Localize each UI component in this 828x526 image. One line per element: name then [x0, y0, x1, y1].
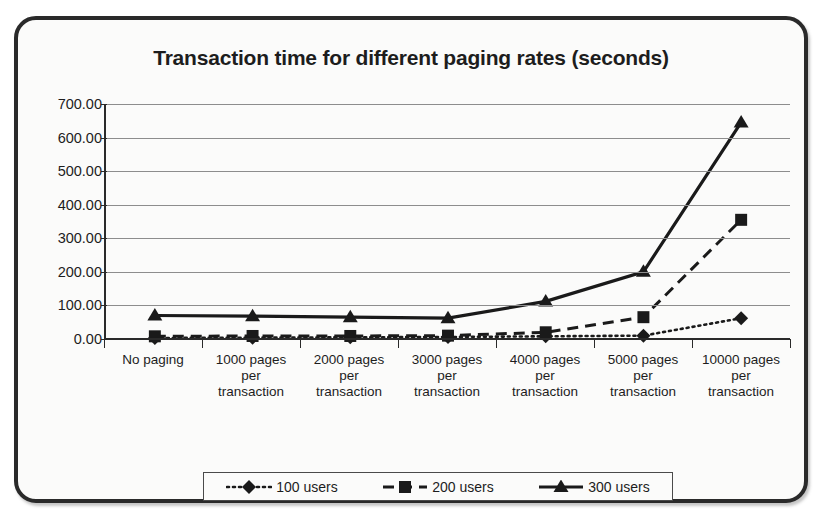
- x-tick-mark: [300, 339, 301, 348]
- legend-label: 300 users: [588, 479, 649, 495]
- x-category-line: transaction: [203, 384, 299, 400]
- legend-entry[interactable]: 100 users: [226, 479, 337, 495]
- gridline: [106, 138, 790, 139]
- x-tick-mark: [202, 339, 203, 348]
- legend-key-triangle-icon: [538, 480, 584, 494]
- y-tick-mark: [101, 238, 107, 239]
- y-axis-labels: 700.00600.00500.00400.00300.00200.00100.…: [26, 104, 102, 339]
- x-tick-mark: [594, 339, 595, 348]
- legend-label: 200 users: [432, 479, 493, 495]
- gridline: [106, 272, 790, 273]
- series-300-users: [147, 115, 748, 323]
- y-tick-mark: [101, 138, 107, 139]
- data-point-triangle: [734, 115, 749, 128]
- y-tick-label: 200.00: [26, 264, 102, 280]
- plot-area: [104, 104, 790, 339]
- series-layer: [106, 104, 790, 339]
- x-category-line: per: [693, 368, 789, 384]
- x-category-label: 5000 pagespertransaction: [594, 352, 692, 452]
- x-category-label: 3000 pagespertransaction: [398, 352, 496, 452]
- legend-entry[interactable]: 200 users: [382, 479, 493, 495]
- x-category-line: per: [595, 368, 691, 384]
- y-tick-label: 100.00: [26, 297, 102, 313]
- x-tick-mark: [398, 339, 399, 348]
- x-tick-mark: [790, 339, 791, 348]
- x-tick-mark: [104, 339, 105, 348]
- y-tick-label: 500.00: [26, 163, 102, 179]
- data-point-square: [637, 311, 649, 323]
- x-category-line: 1000 pages: [203, 352, 299, 368]
- x-tick-mark: [496, 339, 497, 348]
- x-category-line: No paging: [105, 352, 201, 368]
- x-category-line: 2000 pages: [301, 352, 397, 368]
- data-point-diamond: [734, 311, 748, 325]
- series-line: [155, 122, 741, 318]
- x-category-line: transaction: [301, 384, 397, 400]
- x-category-label: 1000 pagespertransaction: [202, 352, 300, 452]
- x-category-line: transaction: [497, 384, 593, 400]
- y-tick-label: 400.00: [26, 197, 102, 213]
- plot-wrapper: 700.00600.00500.00400.00300.00200.00100.…: [18, 20, 812, 507]
- y-tick-label: 600.00: [26, 130, 102, 146]
- x-category-line: per: [399, 368, 495, 384]
- legend-label: 100 users: [276, 479, 337, 495]
- gridline: [106, 205, 790, 206]
- legend-entry[interactable]: 300 users: [538, 479, 649, 495]
- legend-key-diamond-icon: [226, 480, 272, 494]
- x-category-label: 10000 pagespertransaction: [692, 352, 790, 452]
- y-tick-label: 700.00: [26, 96, 102, 112]
- x-category-line: 3000 pages: [399, 352, 495, 368]
- x-category-line: per: [301, 368, 397, 384]
- legend-key-square-icon: [382, 480, 428, 494]
- x-category-line: 5000 pages: [595, 352, 691, 368]
- data-point-square: [540, 326, 552, 338]
- chart-legend: 100 users200 users300 users: [203, 472, 673, 501]
- data-point-square: [735, 214, 747, 226]
- chart-card: Transaction time for different paging ra…: [14, 16, 808, 503]
- y-tick-label: 300.00: [26, 230, 102, 246]
- x-category-line: 10000 pages: [693, 352, 789, 368]
- x-category-line: transaction: [595, 384, 691, 400]
- x-category-label: 2000 pagespertransaction: [300, 352, 398, 452]
- x-tick-mark: [692, 339, 693, 348]
- x-category-line: 4000 pages: [497, 352, 593, 368]
- y-tick-label: 0.00: [26, 331, 102, 347]
- x-category-line: transaction: [399, 384, 495, 400]
- gridline: [106, 171, 790, 172]
- x-axis-ticks: [104, 339, 790, 349]
- x-category-label: 4000 pagespertransaction: [496, 352, 594, 452]
- x-category-line: per: [497, 368, 593, 384]
- x-axis-labels: No paging1000 pagespertransaction2000 pa…: [104, 352, 790, 452]
- x-category-line: transaction: [693, 384, 789, 400]
- gridline: [106, 104, 790, 105]
- y-tick-mark: [101, 205, 107, 206]
- gridline: [106, 305, 790, 306]
- y-tick-mark: [101, 171, 107, 172]
- x-category-line: per: [203, 368, 299, 384]
- y-tick-mark: [101, 272, 107, 273]
- x-category-label: No paging: [104, 352, 202, 452]
- y-tick-mark: [101, 104, 107, 105]
- gridline: [106, 238, 790, 239]
- y-tick-mark: [101, 305, 107, 306]
